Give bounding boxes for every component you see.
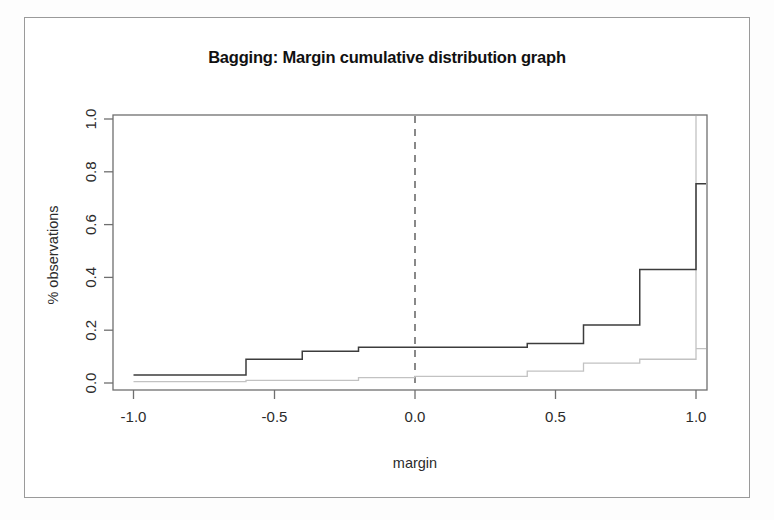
y-tick-label-0-0: 0.0	[82, 373, 99, 394]
plot-frame	[113, 115, 707, 390]
x-tick-label-1-0: 1.0	[686, 408, 707, 425]
x-tick-label-0-5: 0.5	[545, 408, 566, 425]
x-tick-label-neg-0-5: -0.5	[262, 408, 288, 425]
x-axis-title: margin	[393, 455, 437, 471]
x-tick-label-0-0: 0.0	[405, 408, 426, 425]
y-tick-label-0-6: 0.6	[82, 214, 99, 235]
y-axis-ticks	[104, 119, 113, 383]
y-tick-label-0-8: 0.8	[82, 161, 99, 182]
y-tick-label-0-4: 0.4	[82, 267, 99, 288]
y-axis-title: % observations	[45, 205, 61, 304]
plot-canvas: 1.0 0.8 0.6 0.4 0.2 0.0 % observations -…	[0, 0, 774, 520]
y-tick-label-0-2: 0.2	[82, 320, 99, 341]
figure-container: Bagging: Margin cumulative distribution …	[0, 0, 774, 520]
x-axis-ticks	[134, 390, 697, 399]
x-tick-label-neg-1-0: -1.0	[121, 408, 147, 425]
series-test-step-line	[134, 116, 707, 382]
series-train-step-line	[134, 184, 707, 375]
y-tick-label-1-0: 1.0	[82, 109, 99, 130]
